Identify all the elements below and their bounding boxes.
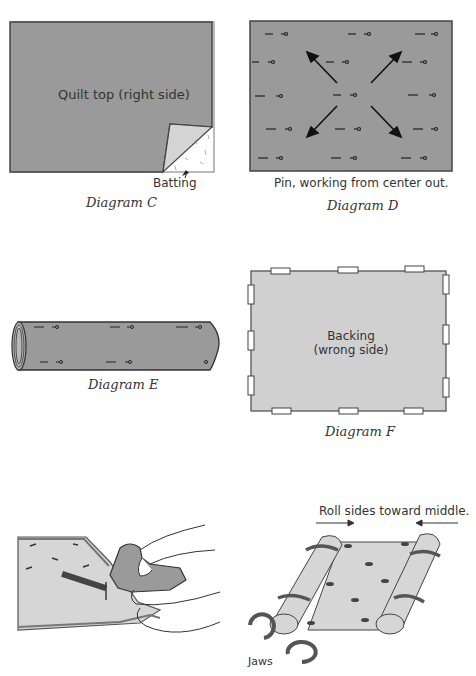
basting-gun-graphic [0,480,238,676]
pinning-instruction: Pin, working from center out. [274,176,449,190]
diagram-f: Backing (wrong side) Diagram F [238,250,476,450]
rolled-quilt-graphic [0,300,238,420]
diagram-d-caption: Diagram D [327,198,399,213]
batting-label: Batting [153,176,197,190]
diagram-e: Diagram E [0,300,238,420]
diagram-f-caption: Diagram F [325,424,395,439]
backing-label-line2: (wrong side) [308,343,394,357]
diagram-c: Quilt top (right side) Batting Diagram C [0,0,238,230]
rolled-quilt-sides-graphic [230,480,476,676]
quilt-top-label: Quilt top (right side) [58,87,190,102]
jaws-label: Jaws [248,655,273,668]
roll-sides-illustration: Roll sides toward middle. Jaws [230,480,476,676]
diagram-d: Pin, working from center out. Diagram D [238,0,476,230]
diagram-e-caption: Diagram E [88,377,159,392]
pinning-pattern-graphic [238,0,476,230]
backing-label-line1: Backing [316,329,386,343]
basting-gun-illustration [0,480,238,676]
diagram-c-caption: Diagram C [86,195,157,210]
